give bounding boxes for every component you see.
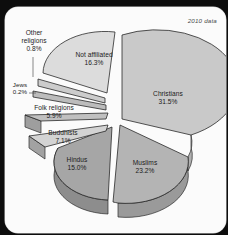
label-folk-value: 5.9% [19,112,89,120]
label-muslims-name: Muslims [133,159,158,166]
label-jews-name: Jews [13,81,27,88]
chart-panel: 2010 data Christians 31.5% Muslims 23.2%… [5,7,226,233]
slice-christians [122,30,226,135]
label-christians: Christians 31.5% [139,90,197,106]
label-muslims: Muslims 23.2% [117,159,173,175]
wall-christians [188,135,192,171]
label-christians-value: 31.5% [139,98,197,106]
label-not-affiliated-value: 16.3% [63,59,125,67]
label-folk-name: Folk religions [34,104,74,111]
label-muslims-value: 23.2% [117,167,173,175]
label-hindus-value: 15.0% [49,164,105,172]
label-buddhists-value: 7.1% [35,137,91,145]
label-buddhists-name: Buddhists [48,129,77,136]
label-other-religions: Other religions 0.8% [11,29,57,52]
data-year-note: 2010 data [188,17,217,24]
label-hindus-name: Hindus [67,156,88,163]
label-other-name2: religions [11,37,57,45]
label-hindus: Hindus 15.0% [49,156,105,172]
label-folk-religions: Folk religions 5.9% [19,104,89,120]
label-christians-name: Christians [153,90,183,97]
label-other-value: 0.8% [11,45,57,53]
label-buddhists: Buddhists 7.1% [35,129,91,145]
label-not-affiliated: Not affiliated 16.3% [63,51,125,67]
label-other-name: Other [26,29,43,36]
label-jews: Jews 0.2% [5,81,37,96]
label-jews-value: 0.2% [5,88,37,95]
figure-frame: 2010 data Christians 31.5% Muslims 23.2%… [0,0,228,235]
label-not-affiliated-name: Not affiliated [75,51,112,58]
